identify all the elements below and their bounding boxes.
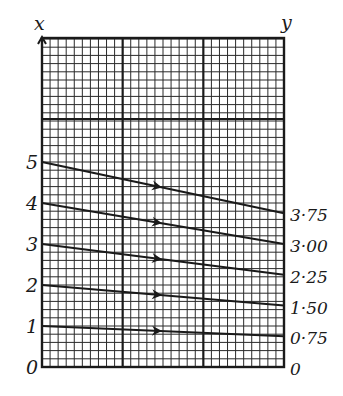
- x-tick-label: 3: [26, 233, 38, 255]
- y-tick-label: 3·00: [290, 236, 328, 256]
- y-tick-label: 0: [290, 359, 301, 379]
- x-tick-label: 1: [26, 315, 38, 337]
- y-tick-label: 2·25: [289, 267, 328, 287]
- y-tick-label: 1·50: [290, 298, 328, 318]
- mapping-diagram: x y 012345 00·751·502·253·003·75: [0, 0, 343, 396]
- x-tick-label: 4: [25, 192, 38, 214]
- graph-paper-minor-grid: [42, 38, 284, 367]
- x-tick-label: 5: [26, 151, 38, 173]
- x-axis-label: x: [34, 12, 45, 34]
- y-tick-label: 0·75: [290, 328, 328, 348]
- y-tick-label: 3·75: [290, 205, 328, 225]
- x-scale-labels: 012345: [25, 151, 38, 378]
- x-tick-label: 2: [25, 274, 38, 296]
- x-tick-label: 0: [26, 356, 38, 378]
- y-axis-label: y: [280, 11, 292, 33]
- y-scale-labels: 00·751·502·253·003·75: [289, 205, 328, 379]
